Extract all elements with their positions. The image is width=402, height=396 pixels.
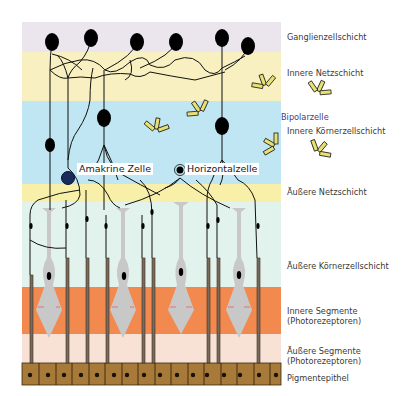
label-inner-nuclear-layer: Innere Körnerzellschicht xyxy=(287,126,385,136)
amacrine-cell xyxy=(62,172,75,185)
antibody-2 xyxy=(306,76,335,99)
label-outer-plexiform-layer: Äußere Netzschicht xyxy=(287,187,367,197)
antibody-6 xyxy=(307,135,335,162)
label-outer-segments-line1: Äußere Segmente xyxy=(287,346,361,356)
horizontal-cell-label: Horizontalzelle xyxy=(185,163,259,175)
label-outer-segments-line2: (Photorezeptoren) xyxy=(287,356,361,366)
retina-diagram xyxy=(0,0,402,396)
band-outer-segments xyxy=(22,334,281,363)
band-pigment-epithelium xyxy=(22,363,281,385)
label-inner-plexiform-layer: Innere Netzschicht xyxy=(287,68,363,78)
label-inner-segments-line1: Innere Segmente xyxy=(287,306,358,316)
bipolar-cell-label: Bipolarzelle xyxy=(281,112,329,122)
amacrine-cell-label: Amakrine Zelle xyxy=(77,163,153,175)
label-pigment-epithelium: Pigmentepithel xyxy=(287,373,349,383)
label-inner-segments-line2: (Photorezeptoren) xyxy=(287,316,361,326)
label-ganglion-layer: Ganglienzellschicht xyxy=(287,32,367,42)
label-outer-nuclear-layer: Äußere Körnerzellschicht xyxy=(287,261,389,271)
